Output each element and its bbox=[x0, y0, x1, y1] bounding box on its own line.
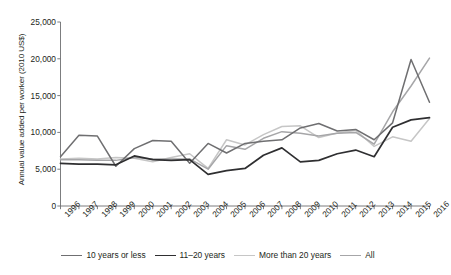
legend-swatch-line-icon bbox=[234, 255, 255, 256]
chart-legend: 10 years or less11–20 yearsMore than 20 … bbox=[0, 250, 436, 260]
legend-swatch-line-icon bbox=[155, 255, 176, 256]
legend-label: All bbox=[365, 250, 374, 260]
legend-label: More than 20 years bbox=[259, 250, 331, 260]
series-line bbox=[61, 58, 430, 169]
legend-item[interactable]: More than 20 years bbox=[234, 250, 331, 260]
legend-item[interactable]: 10 years or less bbox=[61, 250, 145, 260]
legend-item[interactable]: All bbox=[340, 250, 374, 260]
series-line bbox=[61, 60, 430, 167]
legend-label: 11–20 years bbox=[180, 250, 225, 260]
legend-swatch-line-icon bbox=[340, 255, 361, 256]
legend-label: 10 years or less bbox=[86, 250, 145, 260]
legend-swatch-line-icon bbox=[61, 255, 82, 256]
legend-item[interactable]: 11–20 years bbox=[155, 250, 225, 260]
